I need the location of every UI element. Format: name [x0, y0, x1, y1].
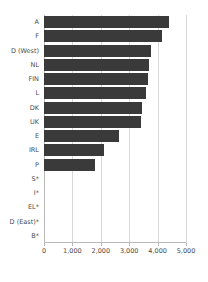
bar[interactable] [44, 45, 151, 57]
bar[interactable] [44, 59, 149, 71]
bar-row [44, 59, 149, 71]
category-label: P [35, 159, 39, 171]
category-label: EL* [28, 201, 39, 213]
gridline-5000 [186, 15, 187, 243]
category-label: IRL [29, 144, 39, 156]
tick-mark [186, 243, 187, 246]
tick-mark [129, 243, 130, 246]
category-label: FIN [28, 73, 39, 85]
bar-row [44, 30, 162, 42]
category-label: D (East)* [10, 216, 39, 228]
category-label: B* [31, 230, 39, 242]
bar-row [44, 159, 95, 171]
category-axis-labels: AFD (West)NLFINLDKUKEIRLPS*I*EL*D (East)… [0, 15, 42, 243]
tick-label: 4,000 [148, 246, 167, 256]
bar-row [44, 116, 141, 128]
bar-row [44, 144, 104, 156]
bar-row [44, 87, 146, 99]
category-label: NL [31, 59, 39, 71]
tick-mark [72, 243, 73, 246]
bar-series [44, 15, 186, 243]
bar-row [44, 45, 151, 57]
tick-mark [101, 243, 102, 246]
category-label: DK [30, 102, 39, 114]
category-label: F [35, 30, 39, 42]
bar-row [44, 16, 169, 28]
bar[interactable] [44, 87, 146, 99]
bar[interactable] [44, 116, 141, 128]
bar-row [44, 102, 142, 114]
bar[interactable] [44, 159, 95, 171]
tick-label: 0 [42, 246, 46, 256]
plot-area [44, 15, 186, 243]
value-axis-tick-labels: 01,0002,0003,0004,0005,000 [0, 246, 208, 260]
bar-row [44, 73, 148, 85]
category-label: UK [30, 116, 39, 128]
bar-chart: AFD (West)NLFINLDKUKEIRLPS*I*EL*D (East)… [0, 0, 208, 282]
category-label: A [35, 16, 39, 28]
bar[interactable] [44, 73, 148, 85]
bar[interactable] [44, 30, 162, 42]
tick-label: 1,000 [63, 246, 82, 256]
tick-mark [44, 243, 45, 246]
category-label: E [35, 130, 39, 142]
tick-label: 5,000 [177, 246, 196, 256]
category-label: D (West) [11, 45, 39, 57]
bar[interactable] [44, 102, 142, 114]
bar[interactable] [44, 130, 119, 142]
category-label: I* [34, 187, 39, 199]
bar[interactable] [44, 16, 169, 28]
bar[interactable] [44, 144, 104, 156]
bar-row [44, 130, 119, 142]
category-label: S* [32, 173, 39, 185]
tick-mark [158, 243, 159, 246]
tick-label: 2,000 [91, 246, 110, 256]
category-label: L [35, 87, 39, 99]
tick-label: 3,000 [120, 246, 139, 256]
